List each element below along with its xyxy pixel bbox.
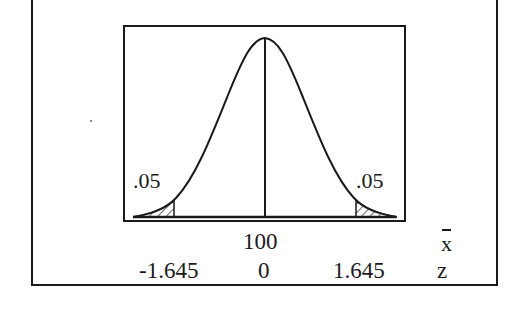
z-center-tick-label: 0 <box>258 260 270 282</box>
xbar-overline <box>442 229 451 231</box>
z-axis-label: z <box>437 260 447 282</box>
xbar-axis-label: x <box>441 233 452 255</box>
right-tail-shaded-region <box>356 201 396 217</box>
z-left-tick-label: -1.645 <box>139 260 198 282</box>
stray-dot <box>90 120 92 122</box>
mean-tick-label: 100 <box>243 231 278 253</box>
xbar-letter: x <box>441 231 452 256</box>
z-right-tick-label: 1.645 <box>333 260 385 282</box>
left-tail-area-label: .05 <box>133 170 161 192</box>
right-tail-area-label: .05 <box>356 170 384 192</box>
left-tail-shaded-region <box>134 201 174 217</box>
